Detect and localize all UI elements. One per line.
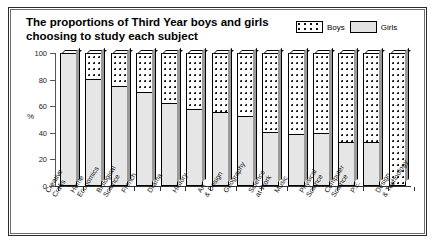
legend-label-boys: Boys	[327, 23, 345, 32]
legend-entry-girls: Girls	[350, 21, 397, 33]
bar-segment-boys	[137, 54, 152, 93]
y-axis-tick-label: 80	[22, 76, 47, 85]
x-axis-category-labels: Creative CraftsHome EconomicsBiological …	[22, 190, 422, 240]
bar-segment-boys	[289, 54, 304, 135]
y-axis-tick	[50, 80, 55, 81]
bar-segment-boys	[263, 54, 278, 133]
chart-title: The proportions of Third Year boys and g…	[26, 16, 286, 43]
bar-segment-divider	[187, 109, 202, 110]
legend-swatch-girls-icon	[350, 21, 377, 33]
bar-segment-boys	[213, 54, 228, 113]
legend-entry-boys: Boys	[296, 21, 345, 33]
bar-side-face	[152, 48, 156, 182]
bar-side-face	[253, 48, 257, 182]
y-axis-tick-label: 20	[22, 155, 47, 164]
figure-container: The proportions of Third Year boys and g…	[0, 0, 435, 244]
chart-legend: Boys Girls	[296, 21, 397, 33]
bar-segment-boys	[238, 54, 253, 117]
bar-segment-boys	[314, 54, 329, 134]
y-axis-tick	[50, 106, 55, 107]
bar-segment-divider	[112, 86, 127, 87]
bar-segment-divider	[137, 92, 152, 93]
y-axis-tick	[50, 53, 55, 54]
bar-segment-boys	[112, 54, 127, 87]
bar-side-face	[202, 48, 206, 182]
chart-title-line-1: The proportions of Third Year boys and g…	[26, 16, 286, 30]
bar-side-face	[379, 48, 383, 182]
y-axis-line	[55, 53, 56, 186]
bar-segment-boys	[162, 54, 177, 104]
bar-segment-divider	[86, 79, 101, 80]
y-axis-tick	[50, 159, 55, 160]
bar-segment-divider	[238, 116, 253, 117]
legend-swatch-boys-icon	[296, 21, 323, 33]
y-axis-title: %	[27, 112, 34, 121]
bar-segment-boys	[187, 54, 202, 110]
bar-side-face	[304, 48, 308, 182]
y-axis-tick-label: 60	[22, 102, 47, 111]
y-axis-tick	[50, 133, 55, 134]
y-axis-tick-label: 40	[22, 129, 47, 138]
legend-label-girls: Girls	[381, 23, 397, 32]
bar-side-face	[177, 48, 181, 182]
y-axis-tick-label: 100	[22, 49, 47, 58]
chart-title-line-2: choosing to study each subject	[26, 30, 286, 44]
bar-segment-boys	[86, 54, 101, 80]
bar-segment-divider	[162, 103, 177, 104]
bar-segment-divider	[213, 112, 228, 113]
